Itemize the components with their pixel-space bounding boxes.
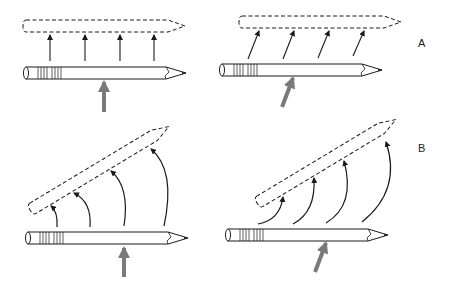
curved-motion-arrows xyxy=(258,142,391,224)
pencil xyxy=(220,64,383,76)
pencil xyxy=(226,229,389,241)
panel-a-right xyxy=(220,16,402,107)
curved-motion-arrows xyxy=(51,149,168,227)
panel-a-left xyxy=(23,20,186,112)
pencil xyxy=(24,67,187,79)
dashed-pencil-outline xyxy=(23,20,185,32)
panel-label-a: A xyxy=(418,37,425,49)
dashed-pencil-outline xyxy=(27,121,172,215)
force-arrow xyxy=(282,78,293,107)
pencil xyxy=(26,232,189,244)
motion-arrows xyxy=(248,31,364,59)
diagram-canvas xyxy=(0,0,450,292)
panel-b-left xyxy=(26,121,189,277)
dashed-pencil-outline xyxy=(239,16,401,28)
panel-label-b: B xyxy=(418,142,425,154)
force-arrow xyxy=(315,243,326,272)
motion-arrows xyxy=(50,35,154,61)
panel-b-right xyxy=(226,114,399,272)
dashed-pencil-outline xyxy=(254,114,399,208)
